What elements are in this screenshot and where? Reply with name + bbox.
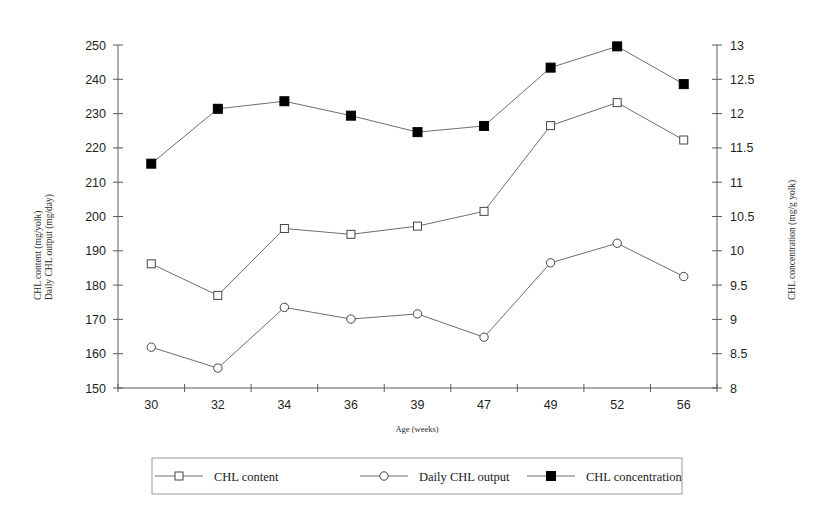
data-point-marker	[613, 99, 621, 107]
series-daily-chl-output	[147, 239, 688, 372]
series-layer	[147, 42, 688, 372]
y-tick-label-left: 190	[85, 244, 106, 258]
y-tick-label-left: 170	[85, 313, 106, 327]
y-tick-label-right: 10	[730, 244, 744, 258]
x-tick-label: 47	[477, 398, 491, 412]
y-tick-label-right: 12	[730, 107, 744, 121]
series-chl-concentration	[147, 42, 688, 168]
data-point-marker	[480, 333, 488, 341]
y-tick-label-right: 9.5	[730, 279, 747, 293]
y-axis-right-ticks: 88.599.51010.51111.51212.513	[712, 39, 754, 396]
data-point-marker	[213, 104, 222, 113]
y-tick-label-right: 9	[730, 313, 737, 327]
series-line	[151, 46, 683, 163]
x-tick-label: 49	[544, 398, 558, 412]
legend-label: CHL concentration	[586, 470, 682, 484]
data-point-marker	[147, 343, 155, 351]
legend-label: Daily CHL output	[419, 470, 510, 484]
legend: CHL contentDaily CHL outputCHL concentra…	[152, 458, 682, 494]
data-point-marker	[346, 111, 355, 120]
x-tick-label: 56	[677, 398, 691, 412]
y-axis-title-right: CHL concentration (mg/g yolk)	[787, 180, 798, 300]
y-tick-label-right: 13	[730, 39, 744, 53]
y-tick-label-left: 160	[85, 347, 106, 361]
y-tick-label-left: 220	[85, 141, 106, 155]
data-point-marker	[546, 259, 554, 267]
data-point-marker	[347, 315, 355, 323]
data-point-marker	[546, 63, 555, 72]
data-point-marker	[414, 222, 422, 230]
y-tick-label-right: 11.5	[730, 141, 753, 155]
y-tick-label-left: 200	[85, 210, 106, 224]
y-tick-label-right: 10.5	[730, 210, 754, 224]
x-tick-label: 34	[277, 398, 291, 412]
data-point-marker	[147, 260, 155, 268]
x-tick-label: 36	[344, 398, 358, 412]
data-point-marker	[680, 272, 688, 280]
y-tick-label-left: 150	[85, 382, 106, 396]
x-tick-label: 32	[211, 398, 225, 412]
legend-items: CHL contentDaily CHL outputCHL concentra…	[155, 470, 682, 484]
x-axis-title: Age (weeks)	[395, 424, 438, 434]
data-point-marker	[413, 310, 421, 318]
data-point-marker	[679, 80, 688, 89]
data-point-marker	[280, 303, 288, 311]
data-point-marker	[214, 291, 222, 299]
data-point-marker	[680, 136, 688, 144]
legend-marker	[175, 472, 183, 480]
data-point-marker	[480, 121, 489, 130]
data-point-marker	[347, 230, 355, 238]
y-axis-title-right-text: CHL concentration (mg/g yolk)	[787, 180, 798, 300]
legend-marker	[547, 472, 556, 481]
data-point-marker	[280, 225, 288, 233]
data-point-marker	[147, 159, 156, 168]
y-tick-label-right: 8.5	[730, 347, 747, 361]
legend-marker	[380, 472, 388, 480]
chart-svg: CHL content (mg/yolk) Daily CHL output (…	[0, 0, 835, 514]
y-tick-label-right: 12.5	[730, 73, 754, 87]
legend-label: CHL content	[214, 470, 279, 484]
y-tick-label-left: 250	[85, 39, 106, 53]
y-tick-label-right: 11	[730, 176, 743, 190]
y-axis-title-left-line2: Daily CHL output (mg/day)	[44, 194, 55, 300]
x-tick-label: 52	[610, 398, 624, 412]
data-point-marker	[547, 122, 555, 130]
data-point-marker	[613, 239, 621, 247]
data-point-marker	[413, 128, 422, 137]
chart-figure: CHL content (mg/yolk) Daily CHL output (…	[0, 0, 835, 514]
y-axis-title-left-line1: CHL content (mg/yolk)	[33, 211, 44, 300]
y-tick-label-left: 180	[85, 279, 106, 293]
y-tick-label-left: 240	[85, 73, 106, 87]
data-point-marker	[214, 364, 222, 372]
series-line	[151, 243, 683, 368]
axes-lines	[118, 45, 717, 388]
data-point-marker	[280, 97, 289, 106]
y-axis-left-ticks: 150160170180190200210220230240250	[85, 39, 123, 396]
y-tick-label-left: 210	[85, 176, 106, 190]
y-axis-title-left: CHL content (mg/yolk) Daily CHL output (…	[33, 194, 55, 300]
y-tick-label-left: 230	[85, 107, 106, 121]
data-point-marker	[613, 42, 622, 51]
data-point-marker	[480, 207, 488, 215]
y-tick-label-right: 8	[730, 382, 737, 396]
x-tick-label: 30	[144, 398, 158, 412]
x-tick-label: 39	[411, 398, 425, 412]
